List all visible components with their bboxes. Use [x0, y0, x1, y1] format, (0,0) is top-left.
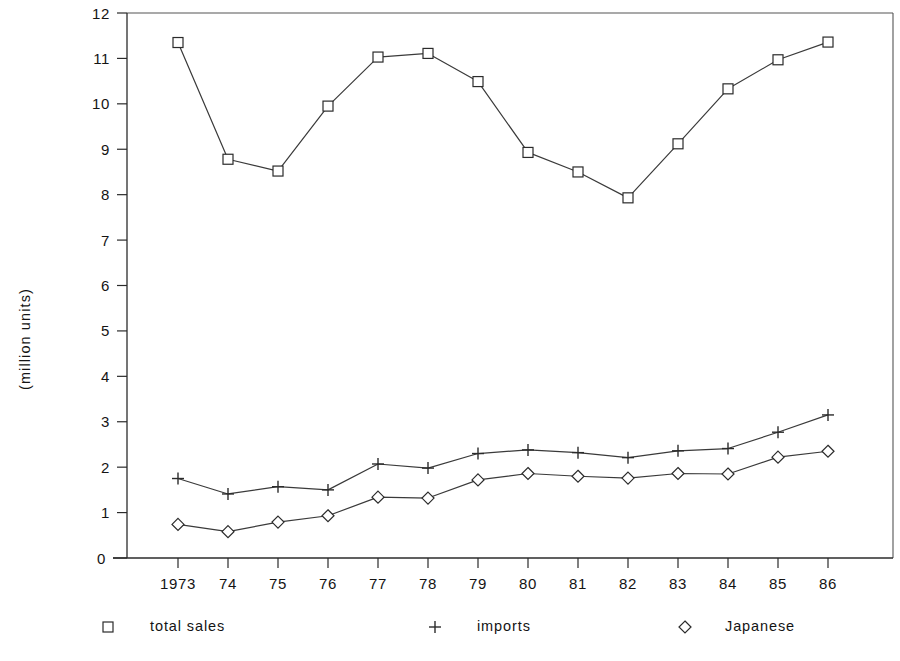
legend-diamond-icon — [679, 621, 691, 633]
data-point-diamond-marker — [572, 470, 584, 482]
x-tick-label: 79 — [469, 575, 487, 592]
data-point-plus-marker — [522, 444, 534, 456]
y-axis-ticks: 0123456789101112 — [92, 5, 127, 567]
chart-legend: total salesimportsJapanese — [103, 618, 795, 634]
data-point-plus-marker — [622, 452, 634, 464]
data-point-square-marker — [423, 48, 433, 58]
data-point-diamond-marker — [522, 468, 534, 480]
data-point-diamond-marker — [672, 468, 684, 480]
data-point-diamond-marker — [322, 510, 334, 522]
data-point-square-marker — [823, 37, 833, 47]
y-tick-label: 12 — [92, 5, 110, 22]
y-tick-label: 7 — [101, 232, 110, 249]
x-tick-label: 80 — [519, 575, 537, 592]
x-tick-label: 85 — [769, 575, 787, 592]
line-chart-figure: 0123456789101112 19737475767778798081828… — [0, 0, 900, 661]
data-point-diamond-marker — [272, 516, 284, 528]
data-point-diamond-marker — [222, 526, 234, 538]
data-point-diamond-marker — [622, 472, 634, 484]
y-tick-label: 11 — [93, 50, 110, 67]
y-tick-label: 6 — [101, 277, 110, 294]
x-tick-label: 81 — [569, 575, 587, 592]
data-point-square-marker — [223, 154, 233, 164]
x-axis-ticks: 197374757677787980818283848586 — [160, 558, 837, 592]
data-point-diamond-marker — [372, 491, 384, 503]
series-line — [178, 415, 828, 494]
legend-label: Japanese — [725, 618, 795, 634]
x-tick-label: 1973 — [160, 575, 196, 592]
y-axis-title: (million units) — [17, 288, 33, 390]
data-point-diamond-marker — [472, 474, 484, 486]
data-point-plus-marker — [772, 426, 784, 438]
x-tick-label: 82 — [619, 575, 637, 592]
series-imports — [172, 409, 834, 500]
data-point-square-marker — [773, 55, 783, 65]
legend-plus-icon — [429, 621, 441, 633]
legend-square-icon — [103, 622, 113, 632]
x-tick-label: 84 — [719, 575, 737, 592]
data-point-square-marker — [323, 101, 333, 111]
data-point-square-marker — [273, 166, 283, 176]
data-point-square-marker — [723, 84, 733, 94]
data-point-plus-marker — [672, 445, 684, 457]
x-tick-label: 83 — [669, 575, 687, 592]
data-point-plus-marker — [822, 409, 834, 421]
data-point-square-marker — [523, 147, 533, 157]
data-point-plus-marker — [572, 447, 584, 459]
legend-item-japanese[interactable]: Japanese — [679, 618, 795, 634]
series-japanese — [172, 445, 834, 537]
y-tick-label: 2 — [101, 459, 110, 476]
x-tick-label: 75 — [269, 575, 287, 592]
legend-item-imports[interactable]: imports — [429, 618, 531, 634]
data-point-square-marker — [373, 52, 383, 62]
data-point-diamond-marker — [722, 468, 734, 480]
data-point-square-marker — [573, 167, 583, 177]
series-layer — [172, 37, 834, 538]
data-point-square-marker — [673, 139, 683, 149]
data-point-diamond-marker — [772, 451, 784, 463]
y-tick-label: 5 — [101, 322, 110, 339]
x-tick-label: 76 — [319, 575, 337, 592]
data-point-plus-marker — [172, 473, 184, 485]
data-point-diamond-marker — [172, 518, 184, 530]
data-point-plus-marker — [222, 488, 234, 500]
data-point-plus-marker — [372, 458, 384, 470]
legend-label: total sales — [150, 618, 225, 634]
data-point-square-marker — [623, 193, 633, 203]
x-tick-label: 74 — [219, 575, 237, 592]
chart-canvas: 0123456789101112 19737475767778798081828… — [0, 0, 900, 661]
x-tick-label: 78 — [419, 575, 437, 592]
y-tick-label: 10 — [92, 95, 110, 112]
data-point-plus-marker — [322, 484, 334, 496]
y-tick-label: 1 — [101, 504, 110, 521]
y-tick-label: 3 — [101, 413, 110, 430]
y-tick-label: 0 — [97, 550, 106, 567]
data-point-diamond-marker — [422, 492, 434, 504]
data-point-square-marker — [473, 77, 483, 87]
x-tick-label: 77 — [369, 575, 387, 592]
data-point-square-marker — [173, 38, 183, 48]
data-point-diamond-marker — [822, 445, 834, 457]
data-point-plus-marker — [272, 481, 284, 493]
data-point-plus-marker — [472, 448, 484, 460]
data-point-plus-marker — [422, 462, 434, 474]
y-tick-label: 9 — [101, 141, 110, 158]
legend-label: imports — [477, 618, 531, 634]
data-point-plus-marker — [722, 443, 734, 455]
series-total-sales — [173, 37, 833, 203]
legend-item-total-sales[interactable]: total sales — [103, 618, 225, 634]
y-tick-label: 8 — [101, 186, 110, 203]
x-tick-label: 86 — [819, 575, 837, 592]
y-tick-label: 4 — [101, 368, 110, 385]
